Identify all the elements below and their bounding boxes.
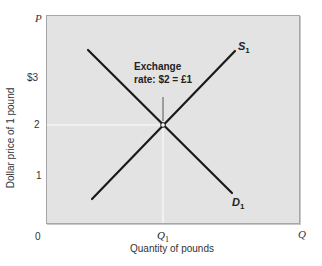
origin-label: 0 bbox=[35, 232, 41, 242]
exchange-rate-annotation: Exchange rate: $2 = £1 bbox=[134, 60, 192, 86]
y-tick-1: 1 bbox=[36, 171, 42, 181]
chart-lines bbox=[0, 0, 322, 266]
y-axis-title: Dollar price of 1 pound bbox=[5, 88, 16, 189]
supply-label-s1: S1 bbox=[238, 40, 250, 55]
y-tick-2: 2 bbox=[34, 120, 40, 130]
x-axis-letter: Q bbox=[298, 229, 306, 240]
x-axis-title: Quantity of pounds bbox=[130, 243, 214, 254]
y-axis-letter: P bbox=[35, 13, 42, 24]
demand-label-d1: D1 bbox=[232, 196, 244, 211]
y-tick-3: $3 bbox=[27, 73, 38, 83]
annotation-line-1: Exchange bbox=[134, 60, 192, 73]
equilibrium-point bbox=[161, 123, 166, 128]
x-tick-q1: Q1 bbox=[157, 229, 169, 244]
annotation-line-2: rate: $2 = £1 bbox=[134, 73, 192, 86]
